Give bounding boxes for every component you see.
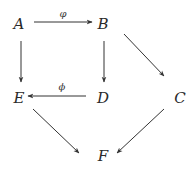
node-e: E [14, 91, 25, 106]
label-phi: ϕ [59, 82, 66, 92]
arrow-c-to-f [117, 109, 164, 153]
arrow-b-to-c [124, 34, 164, 76]
node-c: C [174, 91, 185, 106]
node-d: D [97, 91, 109, 106]
label-varphi: φ [59, 9, 66, 19]
node-a: A [14, 17, 25, 32]
node-b: B [97, 17, 108, 32]
arrow-e-to-f [33, 109, 79, 153]
node-f: F [98, 149, 108, 164]
